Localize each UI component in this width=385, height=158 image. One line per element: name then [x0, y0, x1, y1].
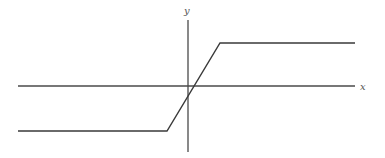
- saturation-curve: [18, 43, 355, 131]
- x-axis-label: x: [360, 81, 366, 92]
- graph-canvas: x y: [0, 0, 385, 158]
- y-axis-label: y: [183, 5, 190, 16]
